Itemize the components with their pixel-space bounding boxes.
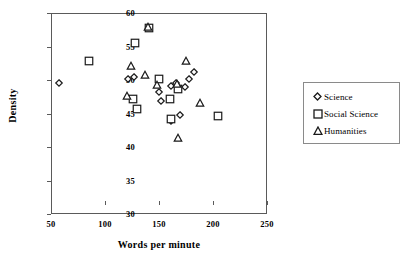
y-tick-label: 60 — [111, 8, 135, 18]
x-tick-label: 200 — [206, 219, 219, 229]
y-tick-mark — [47, 80, 51, 81]
x-tick-mark — [267, 201, 268, 205]
y-tick-mark — [47, 114, 51, 115]
x-tick-label: 250 — [260, 219, 273, 229]
x-tick-mark — [159, 201, 160, 205]
legend-item-science[interactable]: Science — [311, 88, 399, 105]
triangle-icon — [311, 126, 324, 136]
legend-item-label: Humanities — [324, 126, 367, 136]
y-tick-label: 50 — [111, 75, 135, 85]
y-tick-mark — [47, 214, 51, 215]
y-tick-label: 30 — [111, 209, 135, 219]
y-tick-mark — [47, 147, 51, 148]
y-tick-mark — [47, 13, 51, 14]
x-tick-label: 150 — [152, 219, 165, 229]
plot-area — [51, 13, 267, 214]
x-tick-mark — [51, 201, 52, 205]
x-axis-label: Words per minute — [51, 239, 267, 250]
square-icon — [311, 109, 324, 119]
legend-item-social-science[interactable]: Social Science — [311, 105, 399, 122]
y-tick-mark — [47, 181, 51, 182]
chart-legend: ScienceSocial ScienceHumanities — [303, 82, 400, 144]
y-tick-label: 55 — [111, 42, 135, 52]
x-tick-label: 50 — [47, 219, 56, 229]
y-axis-label: Density — [7, 71, 18, 141]
y-tick-label: 45 — [111, 109, 135, 119]
y-tick-label: 35 — [111, 176, 135, 186]
diamond-icon — [311, 92, 324, 101]
legend-item-label: Science — [324, 92, 353, 102]
y-tick-label: 40 — [111, 142, 135, 152]
x-tick-label: 100 — [98, 219, 111, 229]
x-tick-mark — [105, 201, 106, 205]
legend-item-humanities[interactable]: Humanities — [311, 122, 399, 139]
y-tick-mark — [47, 47, 51, 48]
chart-root: 30354045505560 50100150200250 Words per … — [0, 0, 406, 270]
x-tick-mark — [213, 201, 214, 205]
legend-item-label: Social Science — [324, 109, 378, 119]
